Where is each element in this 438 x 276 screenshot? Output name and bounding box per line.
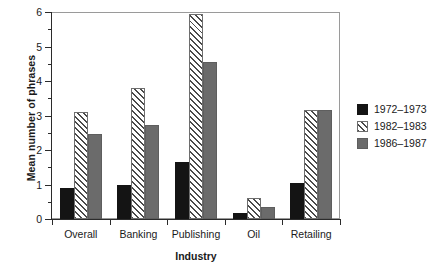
x-tick <box>340 220 341 225</box>
bar <box>290 183 304 219</box>
legend-swatch <box>357 121 368 132</box>
y-tick-label: 0 <box>36 214 42 225</box>
y-tick-minor <box>48 202 52 203</box>
bar <box>74 112 88 219</box>
y-tick-major <box>45 185 51 186</box>
y-tick-major <box>45 116 51 117</box>
x-tick <box>282 220 283 225</box>
bar-group <box>290 12 332 219</box>
bar <box>131 88 145 219</box>
x-tick-label: Overall <box>64 228 97 240</box>
bar <box>247 198 261 219</box>
legend-swatch <box>357 138 368 149</box>
y-tick-minor <box>48 64 52 65</box>
y-tick-major <box>45 81 51 82</box>
y-tick-label: 6 <box>36 7 42 18</box>
x-tick <box>52 220 53 225</box>
x-tick <box>225 220 226 225</box>
bar-group <box>117 12 159 219</box>
x-tick-label: Publishing <box>172 228 220 240</box>
legend-item: 1982–1983 <box>357 118 427 134</box>
y-tick-label: 1 <box>36 179 42 190</box>
legend-label: 1986–1987 <box>374 137 427 149</box>
legend-swatch <box>357 104 368 115</box>
y-tick-major <box>45 47 51 48</box>
y-tick-major <box>45 219 51 220</box>
bar <box>203 62 217 219</box>
bar <box>60 188 74 219</box>
bars-layer <box>52 12 340 219</box>
y-tick-label: 3 <box>36 110 42 121</box>
x-axis-title: Industry <box>175 250 216 262</box>
y-tick-minor <box>48 133 52 134</box>
x-tick <box>167 220 168 225</box>
bar <box>145 125 159 219</box>
bar <box>189 14 203 219</box>
legend-label: 1972–1973 <box>374 103 427 115</box>
bar <box>318 110 332 219</box>
y-tick-label: 5 <box>36 41 42 52</box>
x-tick <box>110 220 111 225</box>
y-tick-minor <box>48 167 52 168</box>
legend-label: 1982–1983 <box>374 120 427 132</box>
x-tick-label: Oil <box>247 228 260 240</box>
bar-group <box>60 12 102 219</box>
legend-item: 1972–1973 <box>357 101 427 117</box>
y-tick-major <box>45 12 51 13</box>
bar <box>304 110 318 219</box>
bar <box>117 185 131 220</box>
legend-item: 1986–1987 <box>357 135 427 151</box>
x-tick-label: Retailing <box>291 228 332 240</box>
y-tick-minor <box>48 29 52 30</box>
bar-chart: Mean number of phrases 0123456 OverallBa… <box>0 0 438 276</box>
y-tick-label: 4 <box>36 76 42 87</box>
bar <box>233 213 247 219</box>
y-tick-major <box>45 150 51 151</box>
y-tick-minor <box>48 98 52 99</box>
bar <box>175 162 189 219</box>
x-tick-label: Banking <box>119 228 157 240</box>
y-tick-label: 2 <box>36 145 42 156</box>
bar <box>261 207 275 219</box>
bar-group <box>175 12 217 219</box>
bar-group <box>233 12 275 219</box>
bar <box>88 134 102 219</box>
legend: 1972–19731982–19831986–1987 <box>357 101 427 152</box>
y-axis-ticks: 0123456 <box>0 0 51 220</box>
x-axis-line <box>51 219 341 220</box>
